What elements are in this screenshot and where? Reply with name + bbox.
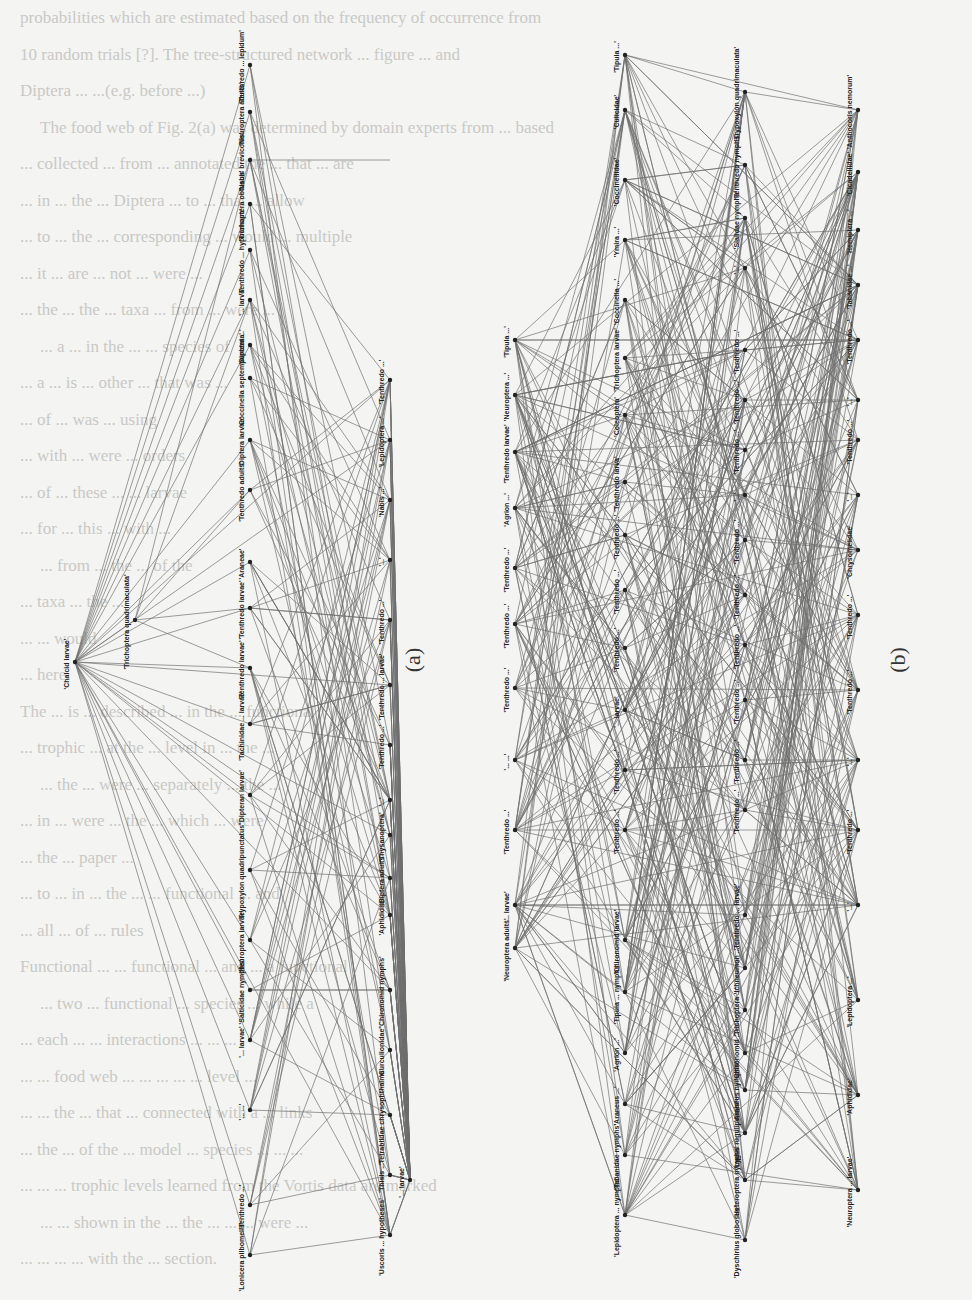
food-web-edge [515,240,625,340]
food-web-edge [250,1050,390,1205]
food-web-node [856,688,860,692]
food-web-node [743,216,747,220]
food-web-node [743,966,747,970]
food-web-node [623,1102,627,1106]
food-web-node [248,1203,252,1207]
node-label: 'Culicidae' [613,94,620,129]
food-web-node [856,613,860,617]
food-web-node [248,722,252,726]
node-label: 'Trypoxylon quadrimaculata' [733,46,741,141]
food-web-edge [75,662,250,990]
food-web-node [248,110,252,114]
node-label: 'Tetrablidae chrysophthalma' [378,1069,386,1166]
node-label: 'Tenthredo adults' [238,462,245,522]
node-label: '...' [378,797,385,806]
node-label: 'Aphididae' [846,1078,854,1115]
node-label: 'Trichoptera larvae' [613,328,621,392]
food-web-node [388,378,392,382]
food-web-edge [515,905,745,968]
food-web-node [743,398,747,402]
food-web-edge [75,662,250,724]
node-label: 'Tenthredo ...' [503,603,510,648]
node-label: 'Neuroptera ... larvae' [846,1156,854,1227]
food-web-node [513,828,517,832]
food-web-edge [75,608,250,662]
food-web-node [248,1253,252,1257]
node-label: 'Lepidoptera ... nymphs' [613,1177,621,1257]
food-web-edge [75,662,250,1040]
node-label: 'Dipteran larvae' [238,770,246,824]
food-web-edge [75,662,250,940]
node-label: 'Coccinella septempunctata' [238,333,246,427]
node-label: 'Lonicera pilbomelis' [238,1222,246,1291]
node-label: 'Tenthredo ...' [613,514,620,559]
node-label: 'Tachinidae ... larvae' [238,691,245,761]
food-web-node [623,480,627,484]
node-label: 'Uscoris ... hypotheses' [378,1198,386,1276]
node-label: '...' [846,397,853,406]
food-web-node [513,566,517,570]
node-label: 'Coccinellidae' [613,157,620,206]
node-label: 'Tenthredo larvae' [238,580,245,640]
node-label: '... larvae' [238,1026,245,1058]
food-web-node [513,450,517,454]
food-web-node [856,1093,860,1097]
food-web-node [248,868,252,872]
food-web-node [856,493,860,497]
node-label: 'Tenthredo ...' [733,624,740,669]
food-web-node [743,448,747,452]
node-label: 'Tenthredo ... hypocrisum' [238,208,246,295]
food-web-node [248,202,252,206]
food-web-node [623,646,627,650]
food-web-node [513,903,517,907]
node-label: '...' [846,902,853,911]
food-web-node [248,793,252,797]
node-label: 'Tenthredo ...' [613,749,620,794]
node-label: 'Coleoptera' [613,397,621,437]
food-web-node [248,438,252,442]
node-label: 'Tenthredo ...' [733,379,740,424]
food-web-edge [625,180,858,340]
food-web-edge [75,345,250,662]
food-web-node [388,558,392,562]
node-label: 'Nabis ...' [378,487,385,518]
node-label: '... larvae' [613,696,620,728]
food-web-node [743,698,747,702]
node-label: 'Tenthredo ...' [613,569,620,614]
node-label: 'Trypoxylon quadripunctatus' [238,823,246,921]
food-web-edge [135,490,250,620]
node-label: '... ...' [503,753,510,770]
food-web-edge [515,92,745,452]
node-label: 'Tenthredo ...' [846,319,853,364]
food-web-edge [515,568,625,1104]
node-label: 'Tenthredo nymphs' [733,134,741,200]
node-label: 'Chironomid nymphs' [378,956,386,1028]
food-web-node [248,560,252,564]
food-web-node [248,1038,252,1042]
food-web-edge [250,204,390,380]
food-web-edge [75,662,250,1110]
node-label: 'Ymira ...' [613,226,620,257]
food-web-node [743,1088,747,1092]
node-label: 'Tenthredo ...' [846,669,853,714]
food-web-node [743,758,747,762]
node-label: 'Tenthredo ...' [846,594,853,639]
food-web-node [623,1153,627,1157]
food-web-edge [75,440,250,662]
food-web-node [743,163,747,167]
node-label: 'Tenthredo ...' [613,809,620,854]
node-label: 'Tipula ...' [503,326,511,358]
node-label: 'Salticidae nymphs' [238,959,246,1024]
food-web-node [513,686,517,690]
node-label: 'Tenthredo ... larvae' [378,653,385,720]
food-web-node [856,903,860,907]
node-label: 'Tenthredo ...' [846,419,853,464]
food-web-node [623,298,627,302]
food-web-edge [75,662,390,915]
food-web-node [513,393,517,397]
food-web-node [623,708,627,712]
node-label: 'Chrysomelidae' [846,525,854,579]
node-label: 'Tenthredo ...' [503,667,510,712]
food-web-edge [135,620,250,668]
food-web-node [248,63,252,67]
